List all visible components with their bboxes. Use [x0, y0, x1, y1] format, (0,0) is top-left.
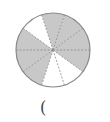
fraction-circle	[0, 0, 110, 100]
answer-blank-paren: (	[40, 99, 46, 117]
